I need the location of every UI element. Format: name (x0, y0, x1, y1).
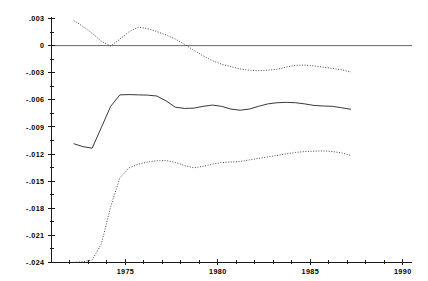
y-tick-label: -.003 (26, 68, 44, 77)
line-chart-plot: .0030-.003-.006-.009-.012-.015-.018-.021… (0, 0, 428, 281)
series-point-estimate (74, 95, 351, 149)
x-tick-label: 1980 (209, 267, 227, 276)
y-tick-label: -.012 (26, 150, 44, 159)
y-tick-label: -.024 (26, 258, 44, 267)
y-tick-label: -.006 (26, 95, 44, 104)
chart-container: .0030-.003-.006-.009-.012-.015-.018-.021… (0, 0, 428, 281)
x-axis-tick-labels: 1975198019851990 (117, 267, 412, 276)
x-axis-ticks (70, 259, 403, 265)
y-tick-label: .003 (29, 14, 45, 23)
x-tick-label: 1975 (117, 267, 135, 276)
series-lower-confidence-band (74, 151, 351, 262)
y-tick-label: -.015 (26, 177, 44, 186)
y-axis-tick-labels: .0030-.003-.006-.009-.012-.015-.018-.021… (26, 14, 44, 267)
y-tick-label: 0 (40, 41, 44, 50)
y-tick-label: -.021 (26, 231, 44, 240)
y-tick-label: -.009 (26, 123, 44, 132)
series-upper-confidence-band (74, 20, 351, 72)
x-tick-label: 1985 (302, 267, 320, 276)
x-tick-label: 1990 (394, 267, 412, 276)
data-series-group (74, 20, 351, 262)
y-tick-label: -.018 (26, 204, 44, 213)
